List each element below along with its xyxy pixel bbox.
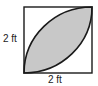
left-side-length-label: 2 ft [3, 33, 17, 44]
shaded-lens-region [24, 7, 92, 73]
bottom-side-length-label: 2 ft [48, 74, 62, 85]
